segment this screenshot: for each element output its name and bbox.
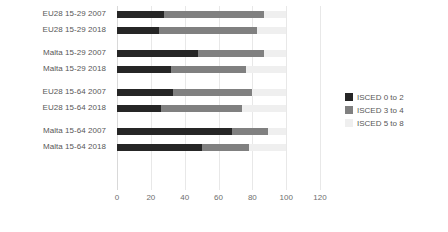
bar-segment <box>202 144 249 151</box>
bar-segment <box>161 105 242 112</box>
legend-item[interactable]: ISCED 5 to 8 <box>345 117 443 129</box>
legend-label: ISCED 0 to 2 <box>357 93 404 102</box>
stacked-bar-chart: EU28 15-29 2007EU28 15-29 2018Malta 15-2… <box>0 0 448 232</box>
bar-segment <box>264 11 286 18</box>
legend-item[interactable]: ISCED 0 to 2 <box>345 91 443 103</box>
category-label: EU28 15-64 2018 <box>43 104 106 112</box>
bar-segment <box>173 89 253 96</box>
bar-segment <box>117 11 164 18</box>
x-tick-label: 80 <box>248 194 257 202</box>
bar-segment <box>117 89 173 96</box>
legend-item[interactable]: ISCED 3 to 4 <box>345 104 443 116</box>
legend-swatch-icon <box>345 93 353 101</box>
category-label: Malta 15-64 2007 <box>43 127 106 135</box>
bar-segment <box>268 128 287 135</box>
category-label: Malta 15-29 2007 <box>43 49 106 57</box>
category-label: Malta 15-64 2018 <box>43 143 106 151</box>
bar-segment <box>249 144 286 151</box>
category-label: EU28 15-29 2018 <box>43 26 106 34</box>
bar-rows <box>117 6 320 190</box>
gridline <box>320 6 321 190</box>
category-label: Malta 15-29 2018 <box>43 65 106 73</box>
bar-row <box>117 50 286 57</box>
bar-segment <box>257 27 286 34</box>
x-tick-label: 40 <box>180 194 189 202</box>
bar-segment <box>117 27 159 34</box>
x-tick-label: 20 <box>146 194 155 202</box>
chart-legend: ISCED 0 to 2ISCED 3 to 4ISCED 5 to 8 <box>345 91 443 130</box>
bar-segment <box>117 128 232 135</box>
x-tick-label: 60 <box>214 194 223 202</box>
legend-swatch-icon <box>345 106 353 114</box>
bar-row <box>117 27 286 34</box>
plot-area <box>117 6 320 190</box>
bar-segment <box>117 105 161 112</box>
bar-segment <box>117 50 198 57</box>
category-label: EU28 15-29 2007 <box>43 10 106 18</box>
bar-segment <box>171 66 245 73</box>
bar-row <box>117 144 286 151</box>
x-axis: 020406080100120 <box>117 190 320 204</box>
bar-row <box>117 105 286 112</box>
legend-label: ISCED 3 to 4 <box>357 106 404 115</box>
x-tick-label: 120 <box>313 194 326 202</box>
bar-segment <box>117 144 202 151</box>
bar-segment <box>198 50 264 57</box>
legend-label: ISCED 5 to 8 <box>357 119 404 128</box>
bar-segment <box>246 66 287 73</box>
category-axis-labels: EU28 15-29 2007EU28 15-29 2018Malta 15-2… <box>0 6 112 190</box>
bar-segment <box>164 11 264 18</box>
bar-segment <box>242 105 286 112</box>
bar-segment <box>252 89 286 96</box>
legend-swatch-icon <box>345 119 353 127</box>
bar-row <box>117 66 286 73</box>
x-tick-label: 100 <box>279 194 292 202</box>
bar-row <box>117 89 286 96</box>
x-tick-label: 0 <box>115 194 119 202</box>
bar-segment <box>264 50 286 57</box>
bar-segment <box>117 66 171 73</box>
bar-segment <box>232 128 268 135</box>
bar-row <box>117 11 286 18</box>
bar-row <box>117 128 286 135</box>
category-label: EU28 15-64 2007 <box>43 88 106 96</box>
bar-segment <box>159 27 257 34</box>
